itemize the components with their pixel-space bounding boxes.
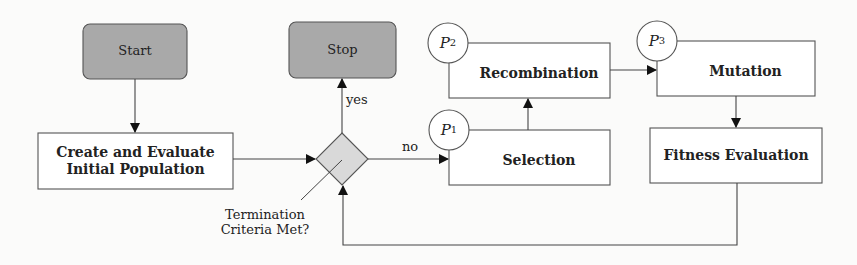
- termination-label: Termination Criteria Met?: [205, 205, 325, 241]
- stop-label: Stop: [289, 22, 396, 78]
- edge-label-no: no: [395, 139, 425, 155]
- p2-marker-label: P2: [428, 23, 468, 63]
- recombination-label: Recombination: [468, 50, 610, 98]
- termination-label-line2: Criteria Met?: [221, 223, 310, 238]
- create-label-line2: Initial Population: [66, 161, 204, 179]
- edge-fitness-decision: [343, 183, 737, 245]
- p1-marker-label: P1: [429, 110, 469, 150]
- p3-marker-label: P3: [637, 21, 677, 61]
- selection-label: Selection: [468, 137, 610, 185]
- termination-label-line1: Termination: [225, 208, 305, 223]
- termination-leader-line: [301, 160, 342, 200]
- edge-label-yes: yes: [346, 92, 376, 108]
- create-label-line1: Create and Evaluate: [56, 144, 214, 162]
- start-label: Start: [83, 24, 187, 79]
- mutation-label: Mutation: [676, 48, 815, 96]
- fitness-label: Fitness Evaluation: [650, 128, 822, 183]
- create-label: Create and Evaluate Initial Population: [38, 133, 233, 189]
